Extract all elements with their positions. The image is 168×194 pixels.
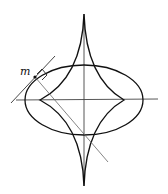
ellipse-evolute-diagram: [0, 0, 168, 194]
normal-line: [35, 77, 108, 162]
label-m: m: [20, 65, 30, 78]
tangent-line: [11, 56, 55, 103]
horizontal-axis: [16, 99, 158, 100]
point-m: [33, 75, 36, 78]
